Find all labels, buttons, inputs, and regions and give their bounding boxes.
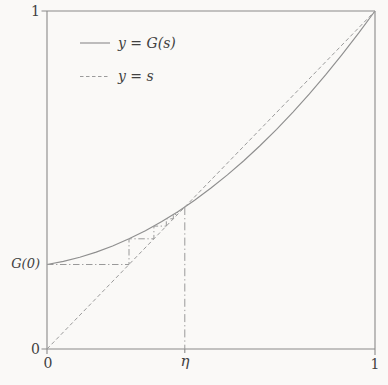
x-tick-label-eta: η: [177, 353, 193, 369]
curve-G-of-s: [47, 11, 375, 265]
legend-label-y-equals-G-of-s: y = G(s): [118, 35, 176, 51]
y-tick-label-one: 1: [24, 3, 40, 19]
line-y-equals-s: [47, 11, 375, 349]
legend-label-y-equals-s: y = s: [118, 68, 154, 84]
cobweb-iteration-path: [47, 212, 178, 265]
data-series: [47, 11, 375, 349]
x-tick-label-zero: 0: [40, 355, 56, 371]
figure-extinction-probability: 1 G(0) 0 0 η 1 y = G(s) y = s: [0, 0, 388, 385]
y-tick-label-zero: 0: [24, 341, 40, 357]
plot-area: [0, 0, 388, 385]
legend-line-samples: [80, 43, 110, 77]
y-label-G0: G(0): [0, 256, 40, 272]
x-tick-label-one: 1: [367, 356, 383, 372]
